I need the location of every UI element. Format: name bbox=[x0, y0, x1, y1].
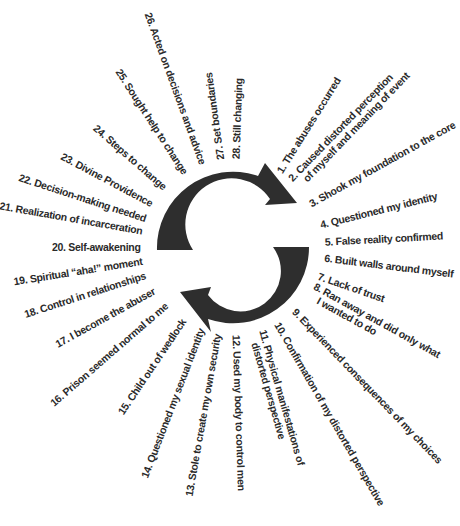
step-label-20: 20. Self-awakening bbox=[52, 242, 141, 253]
arrow-top-right bbox=[157, 163, 297, 250]
step-label-line: 20. Self-awakening bbox=[52, 242, 141, 253]
arrow-bottom-left bbox=[180, 247, 309, 332]
cycle-diagram: 1. The abuses occurred2. Caused distorte… bbox=[0, 0, 460, 526]
